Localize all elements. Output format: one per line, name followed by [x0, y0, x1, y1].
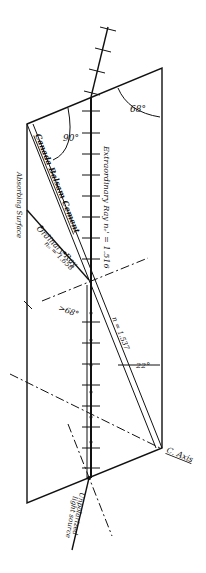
nicol-prism-diagram: 68° 90° >68° 22° Extraordinary Ray nₑ' =… [0, 0, 206, 573]
label-canada-balsam: Canada Balsam Cement [33, 132, 82, 235]
label-68: 68° [130, 104, 146, 114]
label-extraordinary-ray: Extraordinary Ray nₑ' = 1.516 [102, 145, 111, 268]
label-gt68: >68° [57, 303, 80, 319]
label-absorbing-surface: Absorbing Surface [15, 171, 23, 238]
label-c-axis: C. Axis [165, 446, 194, 465]
label-22: 22° [135, 361, 150, 370]
label-balsam-index: n = 1.537 [110, 316, 131, 352]
canada-balsam-layer [27, 124, 162, 448]
label-90: 90° [63, 133, 79, 143]
